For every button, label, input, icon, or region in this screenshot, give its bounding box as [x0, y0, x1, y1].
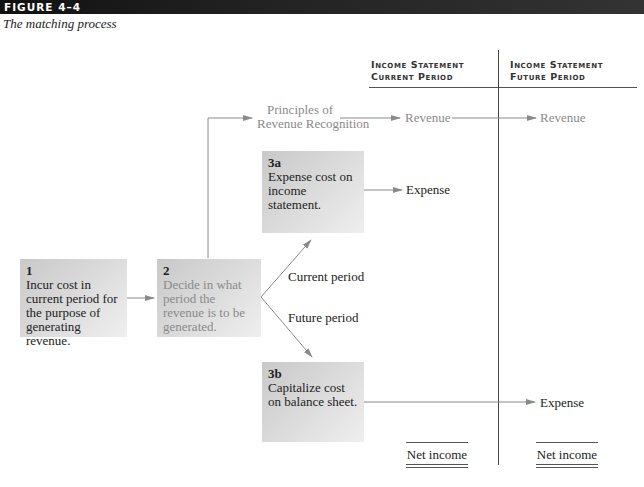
column-header-future: Income Statement Future Period: [510, 59, 603, 83]
column-divider: [498, 50, 499, 465]
figure-label: FIGURE 4–4: [4, 0, 81, 14]
current-period-label: Current period: [288, 270, 364, 284]
net-income-future-double-rule-2: [536, 467, 598, 468]
net-income-current-double-rule-2: [406, 467, 468, 468]
future-period-label: Future period: [288, 311, 358, 325]
step-3b-number: 3b: [268, 367, 358, 381]
net-income-future-label: Net income: [537, 447, 597, 462]
net-income-current-label: Net income: [407, 447, 467, 462]
net-income-current: Net income: [406, 448, 468, 462]
net-income-future-top-rule: [536, 442, 598, 443]
net-income-current-double-rule-1: [406, 464, 468, 465]
step-3b-box: 3b Capitalize cost on balance sheet.: [262, 362, 364, 442]
net-income-current-top-rule: [406, 442, 468, 443]
header-underline: [369, 87, 637, 88]
principles-line1: Principles of: [257, 103, 343, 117]
step-3a-number: 3a: [268, 156, 358, 170]
revenue-current-label: Revenue: [405, 111, 450, 125]
column-header-current-line2: Current Period: [371, 71, 464, 83]
column-header-future-line2: Future Period: [510, 71, 603, 83]
step-3b-text: Capitalize cost on balance sheet.: [268, 380, 357, 409]
step-2-number: 2: [163, 264, 255, 278]
expense-current-label: Expense: [406, 183, 450, 197]
figure-title-bar: [0, 0, 644, 14]
revenue-future-label: Revenue: [540, 111, 585, 125]
net-income-future-double-rule-1: [536, 464, 598, 465]
column-header-current: Income Statement Current Period: [371, 59, 464, 83]
expense-future-label: Expense: [540, 396, 584, 410]
principles-line2: Revenue Recognition: [257, 117, 343, 131]
column-header-future-line1: Income Statement: [510, 59, 603, 71]
principles-label: Principles of Revenue Recognition: [257, 103, 343, 131]
step-2-box: 2 Decide in what period the revenue is t…: [157, 259, 261, 337]
step-1-box: 1 Incur cost in current period for the p…: [20, 259, 127, 337]
column-header-current-line1: Income Statement: [371, 59, 464, 71]
figure-caption: The matching process: [3, 16, 117, 32]
step-1-number: 1: [26, 264, 121, 278]
step-3a-text: Expense cost on income statement.: [268, 169, 352, 212]
step-3a-box: 3a Expense cost on income statement.: [262, 151, 364, 233]
net-income-future: Net income: [536, 448, 598, 462]
step-2-text: Decide in what period the revenue is to …: [163, 277, 245, 334]
step-1-text: Incur cost in current period for the pur…: [26, 277, 118, 348]
